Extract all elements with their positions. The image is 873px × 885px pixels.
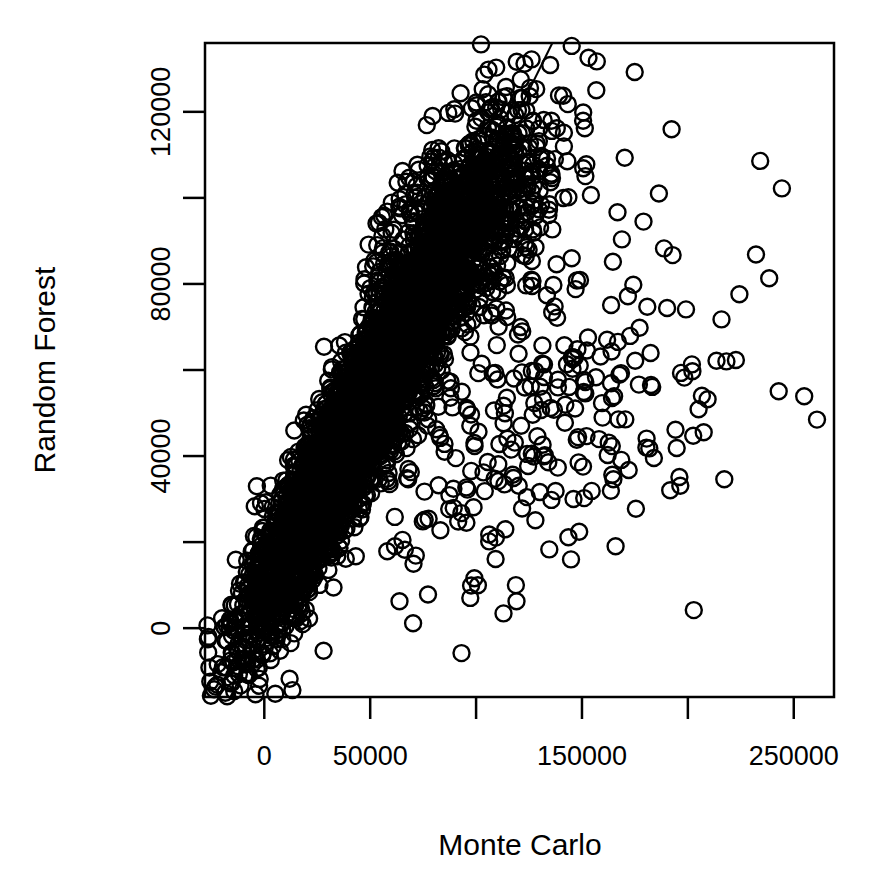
plot-canvas: 050000150000250000 04000080000120000 Mon… bbox=[0, 0, 873, 885]
y-tick-label-2: 40000 bbox=[146, 419, 176, 494]
x-tick-label-0: 0 bbox=[257, 741, 272, 771]
scatter-plot-figure: 050000150000250000 04000080000120000 Mon… bbox=[0, 0, 873, 885]
x-tick-label-3: 150000 bbox=[537, 741, 627, 771]
x-axis-tick-labels: 050000150000250000 bbox=[257, 741, 839, 771]
x-tick-label-1: 50000 bbox=[333, 741, 408, 771]
y-axis-title: Random Forest bbox=[28, 266, 61, 473]
x-tick-label-5: 250000 bbox=[749, 741, 839, 771]
y-tick-label-6: 120000 bbox=[146, 67, 176, 157]
y-tick-label-0: 0 bbox=[146, 621, 176, 636]
x-axis-title: Monte Carlo bbox=[438, 828, 601, 861]
y-tick-label-4: 80000 bbox=[146, 246, 176, 321]
